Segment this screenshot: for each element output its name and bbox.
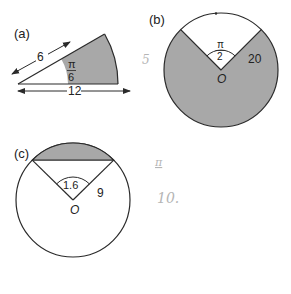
pencil-mark-10: 10. [157, 190, 179, 206]
diagram-canvas: (a) 6 12 π 6 5 (b) π 2 20 O (c) [0, 0, 291, 294]
figure-a: (a) 6 12 π 6 [12, 26, 130, 98]
pencil-mark-pi: π [154, 156, 163, 169]
angle-denominator: 6 [68, 71, 74, 83]
length-6-label: 6 [37, 50, 44, 64]
shaded-segment [32, 143, 113, 160]
angle-denominator: 2 [217, 51, 223, 62]
figure-c-label: (c) [14, 146, 29, 161]
center-label: O [217, 72, 226, 86]
angle-numerator: π [217, 39, 224, 50]
angle-label: 1.6 [63, 179, 78, 191]
length-12-label: 12 [68, 84, 82, 98]
center-label: O [70, 203, 79, 217]
minor-arc [181, 13, 262, 30]
figure-c: (c) 1.6 9 O [14, 143, 130, 257]
radius-label: 20 [248, 52, 262, 66]
pencil-mark-5: 5 [142, 53, 150, 67]
figure-b-label: (b) [149, 12, 165, 27]
angle-numerator: π [68, 58, 76, 70]
figure-b: (b) π 2 20 O [149, 12, 278, 127]
radius-label: 9 [97, 186, 104, 200]
figure-a-label: (a) [14, 26, 30, 41]
